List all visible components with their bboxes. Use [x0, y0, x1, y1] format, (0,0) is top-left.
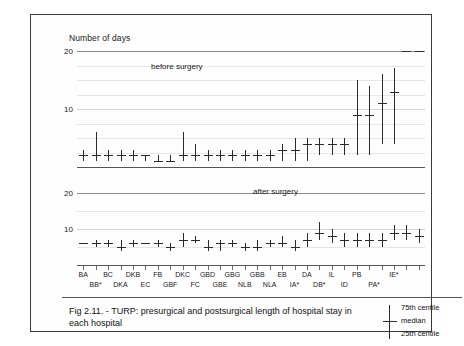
median-tick: [378, 103, 387, 104]
whisker-line: [282, 236, 283, 247]
x-axis-label: FC: [190, 281, 199, 288]
median-tick: [365, 115, 374, 116]
gridline: [77, 80, 425, 81]
median-tick: [79, 243, 88, 244]
x-axis-tick: [282, 266, 283, 270]
median-tick: [204, 155, 213, 156]
x-axis-tick: [158, 266, 159, 270]
panel-label-before: before surgery: [151, 62, 203, 71]
median-tick: [365, 240, 374, 241]
legend-label-median: median: [401, 316, 426, 325]
gridline: [77, 66, 425, 67]
x-axis-label: GBD: [200, 271, 215, 278]
median-tick: [228, 155, 237, 156]
x-axis-tick: [108, 266, 109, 270]
panel-baseline: [77, 167, 425, 168]
median-tick: [253, 247, 262, 248]
gridline: [77, 109, 425, 110]
median-tick: [129, 243, 138, 244]
panel-label-after: after surgery: [253, 187, 298, 196]
x-axis-label: IL: [329, 271, 335, 278]
figure-frame: Number of days 1020 before surgery 1020 …: [30, 14, 432, 332]
median-tick: [315, 233, 324, 234]
x-axis-tick: [183, 266, 184, 270]
x-axis-label: IA*: [290, 281, 299, 288]
median-tick: [79, 155, 88, 156]
whisker-line: [282, 144, 283, 161]
gridline: [77, 138, 425, 139]
median-tick: [340, 240, 349, 241]
whisker-line: [394, 68, 395, 143]
whisker-line: [121, 240, 122, 251]
x-axis-label: GBF: [163, 281, 177, 288]
x-axis-label: BB*: [90, 281, 102, 288]
x-axis-tick: [382, 266, 383, 270]
legend: 75th centile median 25th centile: [383, 303, 459, 343]
x-axis-tick: [232, 266, 233, 270]
gridline: [77, 229, 425, 230]
y-axis-tick-label: 10: [64, 105, 73, 114]
whisker-line: [344, 138, 345, 155]
x-axis-tick: [170, 266, 171, 270]
median-tick: [266, 243, 275, 244]
x-axis-label: DKA: [113, 281, 127, 288]
median-tick: [353, 115, 362, 116]
median-tick: [241, 247, 250, 248]
gridline: [77, 95, 425, 96]
x-axis-tick: [208, 266, 209, 270]
x-axis-tick: [121, 266, 122, 270]
plot-area-after: 1020: [77, 193, 425, 265]
y-axis-tick-label: 20: [64, 189, 73, 198]
median-tick: [390, 233, 399, 234]
whisker-line: [319, 138, 320, 155]
gridline: [77, 153, 425, 154]
x-axis-tick: [319, 266, 320, 270]
x-axis-tick: [145, 266, 146, 270]
x-axis-tick: [332, 266, 333, 270]
whisker-line: [382, 74, 383, 144]
x-axis-label: GBE: [213, 281, 228, 288]
median-tick: [315, 144, 324, 145]
median-tick: [328, 236, 337, 237]
x-axis-label: GBG: [225, 271, 241, 278]
x-axis-tick: [307, 266, 308, 270]
median-tick: [253, 155, 262, 156]
x-axis: [77, 265, 425, 266]
x-axis-label: BC: [103, 271, 113, 278]
x-axis-label: BA: [79, 271, 88, 278]
x-axis-tick: [220, 266, 221, 270]
median-tick: [402, 233, 411, 234]
whisker-line: [220, 240, 221, 251]
median-tick: [154, 161, 163, 162]
median-tick: [303, 144, 312, 145]
whisker-line: [357, 80, 358, 155]
median-tick: [117, 247, 126, 248]
y-axis-tick-label: 20: [64, 47, 73, 56]
median-tick: [266, 155, 275, 156]
median-tick: [129, 155, 138, 156]
x-axis-tick: [257, 266, 258, 270]
median-tick: [154, 243, 163, 244]
median-tick: [104, 155, 113, 156]
x-axis-tick: [245, 266, 246, 270]
x-axis-tick: [369, 266, 370, 270]
median-tick: [402, 51, 411, 52]
median-tick: [228, 243, 237, 244]
x-axis-label: GBB: [250, 271, 265, 278]
median-tick: [92, 155, 101, 156]
legend-label-25th: 25th centile: [401, 329, 439, 338]
median-tick: [117, 155, 126, 156]
x-axis-tick: [270, 266, 271, 270]
x-axis-tick: [96, 266, 97, 270]
median-tick: [278, 150, 287, 151]
x-axis-label: DKC: [175, 271, 190, 278]
median-tick: [390, 92, 399, 93]
x-axis-label: IE*: [389, 271, 398, 278]
gridline: [77, 51, 425, 52]
gridline: [77, 247, 425, 248]
x-axis-tick: [357, 266, 358, 270]
whisker-line: [332, 138, 333, 155]
x-axis-tick: [195, 266, 196, 270]
whisker-line: [183, 132, 184, 161]
whisker-line: [257, 240, 258, 251]
